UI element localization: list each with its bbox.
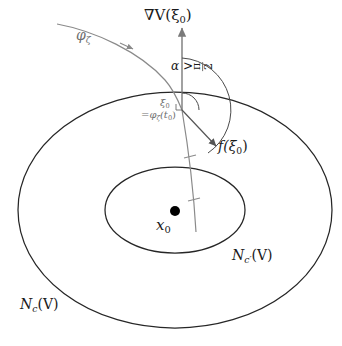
equilibrium-point-label: x0 [156,218,171,235]
crossing-point-label: ξ0 [160,98,170,110]
angle-fraction-denominator: 2 [203,62,214,71]
trajectory-direction-arrow-icon [120,43,133,49]
figure-canvas: ∇V(ξ0) φζ α > π 2 ξ0 =φζ(t0) f(ξ0) x0 Nc… [0,0,342,346]
angle-symbol: α [171,59,179,73]
angle-fraction: π 2 [191,62,214,71]
trajectory-label-base: φ [76,27,86,43]
gradient-vector-label: ∇V(ξ0) [144,8,192,25]
crossing-point-equation-label: =φζ(t0) [141,110,176,122]
outer-level-set-label: Nc(V) [20,297,58,313]
trajectory-label-sub: ζ [86,34,91,45]
crossing-eq-prefix: =φ [141,109,156,120]
crossing-eq-close: ) [172,109,176,120]
equilibrium-point-dot [170,206,180,216]
outer-level-label-base: N [20,296,32,312]
vector-field-label-base: f(ξ [218,138,236,154]
inner-level-label-arg: (V) [252,247,273,263]
vector-field-label: f(ξ0) [218,139,248,155]
vector-field-label-close: ) [242,138,247,154]
inner-level-label-sub: c′ [244,254,251,265]
tick-mark-upper [184,155,196,158]
gradient-label-close: ) [186,6,192,24]
trajectory-continuation [182,110,196,232]
inner-level-set-label: Nc′(V) [232,248,273,264]
crossing-eq-mid: (t [160,109,168,120]
gradient-label-base: ∇V(ξ [144,6,179,24]
equilibrium-label-sub: 0 [164,224,170,235]
trajectory-label: φζ [76,28,91,44]
diagram-vector-layer [0,0,342,346]
angle-arc-small [182,93,199,110]
angle-relation-label: α > π 2 [171,55,208,78]
outer-level-label-arg: (V) [37,296,58,312]
inner-level-label-base: N [232,247,244,263]
